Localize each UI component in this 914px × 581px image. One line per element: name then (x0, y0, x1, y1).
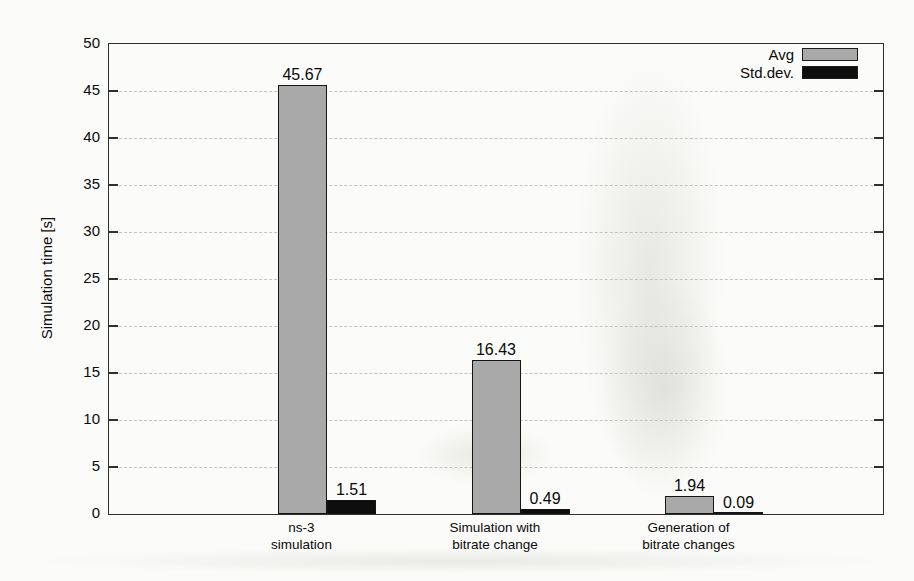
y-tick-left (109, 137, 118, 139)
y-gridline (109, 138, 883, 139)
y-tick-right (874, 184, 883, 186)
y-tick-left (109, 278, 118, 280)
bar-value-label: 45.67 (261, 67, 345, 83)
y-gridline (109, 326, 883, 327)
stddev-bar (714, 512, 763, 514)
y-tick-label: 50 (58, 35, 100, 51)
y-tick-right (874, 372, 883, 374)
category-label: ns-3simulation (207, 520, 397, 553)
y-tick-label: 30 (58, 223, 100, 239)
y-tick-right (874, 90, 883, 92)
category-label: Generation ofbitrate changes (594, 520, 784, 553)
legend-label: Std.dev. (740, 65, 794, 80)
category-label: Simulation withbitrate change (400, 520, 590, 553)
y-tick-left (109, 466, 118, 468)
y-tick-label: 20 (58, 317, 100, 333)
y-tick-label: 15 (58, 364, 100, 380)
y-tick-left (109, 184, 118, 186)
y-tick-right (874, 231, 883, 233)
y-tick-label: 10 (58, 411, 100, 427)
y-tick-left (109, 419, 118, 421)
y-tick-right (874, 325, 883, 327)
y-tick-right (874, 419, 883, 421)
y-tick-right (874, 466, 883, 468)
y-tick-left (109, 372, 118, 374)
bar-value-label: 1.94 (648, 478, 732, 494)
y-tick-label: 40 (58, 129, 100, 145)
y-tick-left (109, 90, 118, 92)
y-tick-label: 0 (58, 505, 100, 521)
bar-value-label: 1.51 (310, 482, 394, 498)
stddev-bar (521, 509, 570, 514)
y-tick-right (874, 278, 883, 280)
y-tick-left (109, 325, 118, 327)
bar-value-label: 16.43 (454, 342, 538, 358)
legend: AvgStd.dev. (740, 47, 858, 80)
avg-bar (278, 85, 327, 514)
plot-area: 45.6716.431.941.510.490.09 (108, 43, 884, 515)
y-tick-label: 5 (58, 458, 100, 474)
y-gridline (109, 185, 883, 186)
bar-value-label: 0.49 (503, 491, 587, 507)
y-tick-right (874, 137, 883, 139)
y-tick-left (109, 231, 118, 233)
y-tick-label: 45 (58, 82, 100, 98)
y-gridline (109, 279, 883, 280)
chart: Simulation time [s] 45.6716.431.941.510.… (0, 0, 914, 581)
legend-row: Avg (740, 47, 858, 62)
y-gridline (109, 232, 883, 233)
y-tick-label: 25 (58, 270, 100, 286)
legend-swatch (802, 66, 858, 79)
y-gridline (109, 91, 883, 92)
legend-swatch (802, 48, 858, 61)
legend-row: Std.dev. (740, 65, 858, 80)
y-tick-label: 35 (58, 176, 100, 192)
bar-value-label: 0.09 (697, 495, 781, 511)
y-axis-title: Simulation time [s] (38, 217, 55, 340)
stddev-bar (327, 500, 376, 514)
legend-label: Avg (768, 47, 794, 62)
